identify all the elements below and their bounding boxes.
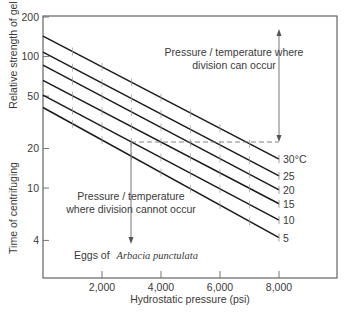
series-label: 30°C (283, 153, 307, 165)
annotations: Pressure / temperature where division ca… (65, 29, 303, 261)
annotation-can-occur-line1: Pressure / temperature where (165, 46, 304, 58)
series-label: 5 (283, 232, 289, 244)
x-axis-label: Hydrostatic pressure (psi) (130, 293, 250, 305)
series-label: 25 (283, 170, 295, 182)
series-label: 10 (283, 214, 295, 226)
y-tick-label: 200 (21, 11, 39, 23)
eggs-prefix: Eggs of (74, 249, 110, 261)
arrowhead-up-icon (277, 29, 282, 36)
y-axis-ticks: 2001005020104 (21, 11, 49, 246)
annotation-cannot-occur-line2: where division cannot occur (65, 203, 196, 215)
y-tick-label: 50 (27, 90, 39, 102)
y-tick-label: 100 (21, 50, 39, 62)
y-tick-label: 4 (33, 234, 39, 246)
y-tick-label: 10 (27, 182, 39, 194)
y-axis-label-upper: Relative strength of gel (7, 1, 19, 108)
x-tick-label: 2,000 (89, 281, 115, 293)
arrowhead-down-icon (129, 237, 134, 244)
arrowhead-down-icon (277, 135, 282, 142)
y-tick-label: 20 (27, 142, 39, 154)
chart: 2001005020104 2,0004,0006,0008,000 30°C2… (0, 0, 347, 314)
x-tick-label: 8,000 (266, 281, 292, 293)
series-label: 20 (283, 184, 295, 196)
annotation-can-occur-line2: division can occur (192, 59, 276, 71)
eggs-label: Eggs of Arbacia punctulata (74, 249, 198, 261)
annotation-cannot-occur-line1: Pressure / temperature (77, 190, 185, 202)
series-label: 15 (283, 198, 295, 210)
eggs-species: Arbacia punctulata (116, 250, 198, 261)
y-axis-label-lower: Time of centrifuging (7, 162, 19, 254)
x-axis-ticks: 2,0004,0006,0008,000 (89, 271, 292, 293)
x-tick-label: 4,000 (148, 281, 174, 293)
x-tick-label: 6,000 (207, 281, 233, 293)
